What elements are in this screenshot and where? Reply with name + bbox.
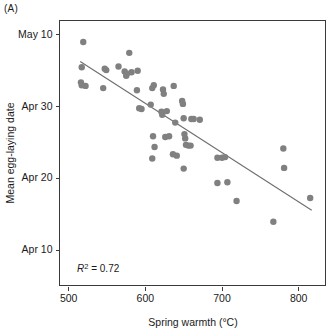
data-point <box>190 116 196 122</box>
data-point <box>80 39 86 45</box>
data-point <box>134 87 140 93</box>
data-point <box>280 145 286 151</box>
r-squared-annotation: R2 = 0.72 <box>77 262 120 275</box>
data-point <box>134 68 140 74</box>
data-point <box>162 134 168 140</box>
data-point <box>233 198 239 204</box>
figure-panel-a: (A) May 10Apr 30Apr 20Apr 10 50060070080… <box>0 0 326 332</box>
regression-line <box>80 61 312 210</box>
data-point <box>180 115 186 121</box>
x-axis-title: Spring warmth (°C) <box>148 316 237 328</box>
data-point <box>151 144 157 150</box>
data-point <box>182 135 188 141</box>
data-point <box>224 179 230 185</box>
data-point <box>151 82 157 88</box>
data-point <box>172 119 178 125</box>
scatter-plot: May 10Apr 30Apr 20Apr 10 500600700800 Me… <box>0 0 326 332</box>
data-points <box>78 39 314 225</box>
data-point <box>150 133 156 139</box>
x-tick-label: 500 <box>60 292 78 304</box>
y-tick-label: Apr 10 <box>22 243 53 255</box>
y-tick-label: May 10 <box>18 28 53 40</box>
data-point <box>82 83 88 89</box>
data-point <box>281 165 287 171</box>
data-point <box>100 85 106 91</box>
data-point <box>138 106 144 112</box>
x-tick-label: 600 <box>137 292 155 304</box>
data-point <box>170 151 176 157</box>
x-tick-label: 800 <box>290 292 308 304</box>
data-point <box>270 219 276 225</box>
r-symbol: R <box>77 263 84 274</box>
data-point <box>307 195 313 201</box>
x-tick-label: 700 <box>213 292 231 304</box>
data-point <box>180 101 186 107</box>
y-tick-label: Apr 20 <box>22 171 53 183</box>
y-axis-title: Mean egg-laying date <box>4 102 16 203</box>
x-axis: 500600700800 <box>60 287 308 304</box>
data-point <box>115 63 121 69</box>
data-point <box>160 86 166 92</box>
data-point <box>164 108 170 114</box>
data-point <box>126 50 132 56</box>
data-point <box>128 69 134 75</box>
data-point <box>171 83 177 89</box>
r-squared-text: R2 = 0.72 <box>77 262 120 275</box>
data-point <box>148 101 154 107</box>
data-point <box>79 64 85 70</box>
data-point <box>180 165 186 171</box>
data-point <box>197 117 203 123</box>
y-tick-label: Apr 30 <box>22 100 53 112</box>
r-value: = 0.72 <box>88 263 119 274</box>
y-axis: May 10Apr 30Apr 20Apr 10 <box>18 28 59 256</box>
data-point <box>103 67 109 73</box>
data-point <box>149 155 155 161</box>
data-point <box>222 154 228 160</box>
data-point <box>214 180 220 186</box>
data-point <box>187 142 193 148</box>
